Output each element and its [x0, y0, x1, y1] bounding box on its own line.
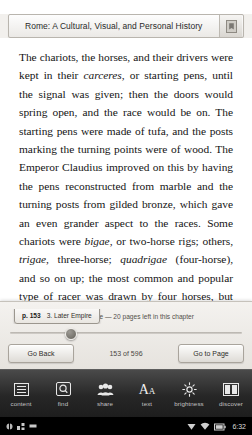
chapter-status: 3. Later Empire — 20 pages left in this …	[8, 309, 244, 324]
latin-term-bigae: bigae	[84, 235, 109, 247]
usb-icon	[6, 417, 13, 435]
slider-thumb[interactable]	[65, 328, 77, 340]
toolbar-label-find: find	[58, 400, 68, 407]
latin-term-quadrigae: quadrigae	[120, 253, 167, 265]
toolbar-item-content[interactable]: content	[0, 381, 42, 407]
book-titlebar: Rome: A Cultural, Visual, and Personal H…	[8, 14, 244, 38]
status-right-icons: 6:32	[187, 417, 246, 435]
page-tooltip: p. 153 3. Later Empire	[14, 309, 100, 324]
tooltip-page-label: p. 153	[22, 309, 41, 323]
status-clock: 6:32	[232, 423, 246, 430]
bottom-toolbar: content find	[0, 369, 252, 417]
status-left-icons	[6, 417, 187, 435]
people-group-icon	[97, 381, 114, 398]
toolbar-item-share[interactable]: share	[84, 381, 126, 407]
toolbar-item-brightness[interactable]: brightness	[168, 381, 210, 407]
list-lines-icon	[14, 381, 29, 398]
top-spacer	[0, 0, 252, 14]
go-back-button[interactable]: Go Back	[8, 344, 74, 363]
wifi-icon	[200, 417, 210, 435]
android-status-bar: 6:32	[0, 417, 252, 435]
page-count-label: 153 of 596	[74, 350, 178, 357]
latin-term-trigae: trigae	[19, 253, 46, 265]
bookmark-icon	[226, 20, 237, 33]
toolbar-item-text[interactable]: AA text	[126, 381, 168, 407]
page-slider[interactable]	[10, 327, 242, 339]
book-title: Rome: A Cultural, Visual, and Personal H…	[9, 21, 219, 31]
slider-track[interactable]	[10, 332, 242, 334]
tooltip-chapter-label: 3. Later Empire	[47, 309, 92, 323]
book-page[interactable]: The chariots, the horses, and their driv…	[0, 38, 252, 338]
toolbar-label-text-share: share	[97, 400, 113, 407]
bookmark-button[interactable]	[219, 15, 242, 37]
go-to-page-button[interactable]: Go to Page	[178, 344, 244, 363]
sd-card-icon	[29, 417, 37, 435]
page-navigation-panel: 3. Later Empire — 20 pages left in this …	[0, 301, 252, 369]
sync-icon	[17, 417, 25, 435]
battery-icon	[214, 417, 226, 435]
toolbar-label-discover: discover	[219, 400, 243, 407]
sun-icon	[182, 381, 197, 398]
paragraph-1: The chariots, the horses, and their driv…	[19, 48, 233, 324]
toolbar-label-brightness: brightness	[174, 400, 204, 407]
aa-text-size-icon: AA	[139, 381, 156, 398]
magnifier-icon	[56, 381, 71, 398]
two-panels-icon	[223, 381, 239, 398]
toolbar-label-content: content	[11, 400, 32, 407]
ereader-screen: Rome: A Cultural, Visual, and Personal H…	[0, 0, 252, 435]
signal-icon	[187, 417, 196, 435]
toolbar-item-find[interactable]: find	[42, 381, 84, 407]
toolbar-item-discover[interactable]: discover	[210, 381, 252, 407]
toolbar-label-text: text	[142, 400, 152, 407]
latin-term-carceres: carceres	[84, 69, 122, 81]
navigation-buttons: Go Back 153 of 596 Go to Page	[8, 344, 244, 363]
